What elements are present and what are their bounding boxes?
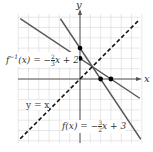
finv-tail: x + 2: [55, 55, 79, 65]
data-point: [109, 77, 114, 82]
f-tail: x + 3: [102, 121, 126, 131]
f-inverse-label: f−1(x) = −23x + 2: [6, 52, 79, 67]
f-prefix: f(x) = −: [62, 121, 98, 131]
x-axis-label: x: [144, 74, 150, 84]
x-axis-arrow-icon: [136, 77, 142, 81]
finv-sup: −1: [9, 53, 18, 60]
data-point: [78, 46, 83, 51]
y-equals-x-label: y = x: [26, 100, 49, 110]
data-point: [98, 77, 103, 82]
y-axis-label: y: [76, 0, 82, 10]
f-label: f(x) = −32x + 3: [62, 120, 126, 133]
finv-rest: (x) = −: [18, 55, 51, 65]
